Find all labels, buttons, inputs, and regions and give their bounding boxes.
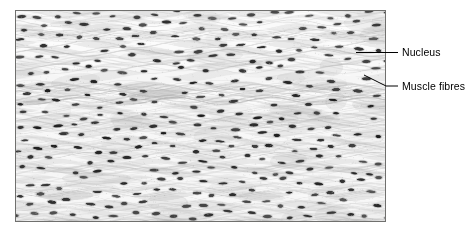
figure-root: Nucleus Muscle fibres xyxy=(0,0,475,234)
micrograph-panel xyxy=(15,10,386,222)
callout-label-muscle-fibres: Muscle fibres xyxy=(402,80,465,92)
muscle-tissue-micrograph xyxy=(16,11,385,221)
callout-label-nucleus: Nucleus xyxy=(402,46,441,58)
